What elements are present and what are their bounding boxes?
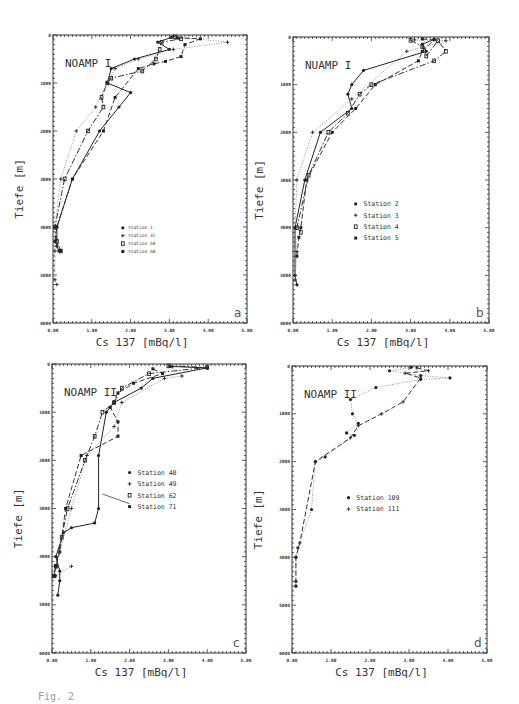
legend-entry: Station 71: [137, 503, 176, 511]
marker-square-icon: [152, 62, 155, 65]
legend-entry: Station 111: [356, 505, 399, 513]
y-tick-label: 3000: [280, 178, 291, 183]
x-tick-label: 5.00: [482, 658, 493, 663]
legend: Station 40Station 49Station 62Station 71: [128, 469, 177, 511]
marker-plus-icon: [427, 369, 431, 373]
y-tick-label: 6000: [40, 321, 51, 326]
marker-plus-icon: [171, 48, 175, 52]
marker-dot-icon: [347, 496, 350, 499]
y-tick-label: 2000: [279, 459, 290, 464]
y-tick-label: 3000: [40, 177, 51, 182]
marker-square-icon: [71, 178, 74, 181]
marker-square-icon: [199, 37, 202, 40]
marker-square-icon: [116, 391, 119, 394]
x-tick-label: 2.00: [124, 658, 135, 663]
marker-square-icon: [58, 550, 61, 553]
marker-square-icon: [114, 96, 117, 99]
x-axis-title: Cs 137 [mBq/l]: [95, 666, 188, 679]
x-tick-label: 0.00: [47, 658, 58, 663]
marker-square-icon: [64, 507, 67, 510]
panel-a: 0.001.002.003.004.005.000100020003000400…: [13, 33, 253, 350]
y-axis-title: Tiefe [m]: [13, 159, 26, 219]
y-tick-label: 6000: [279, 651, 290, 656]
legend-entry: Station 40: [137, 469, 176, 477]
marker-square-icon: [161, 372, 164, 375]
panel-d: 0.001.002.003.004.005.000100020003000400…: [252, 364, 493, 680]
x-tick-label: 1.00: [327, 328, 338, 333]
marker-plus-icon: [53, 249, 57, 253]
x-tick-label: 4.00: [444, 328, 455, 333]
legend-entry: Station 109: [356, 494, 399, 502]
x-axis-title: Cs 137 [mBq/l]: [96, 336, 189, 349]
x-tick-label: 0.00: [287, 658, 298, 663]
marker-dot-icon: [448, 376, 451, 379]
marker-plus-icon: [121, 234, 125, 238]
marker-open-icon: [354, 225, 357, 229]
marker-open-icon: [128, 493, 131, 497]
marker-dot-icon: [140, 386, 143, 389]
y-tick-label: 3000: [39, 506, 50, 511]
y-tick-label: 1000: [280, 82, 291, 87]
marker-square-icon: [297, 236, 300, 239]
marker-square-icon: [354, 107, 357, 110]
marker-plus-icon: [180, 374, 184, 378]
x-axis-title: Cs 137 [mBq/l]: [337, 336, 430, 349]
series-line: [56, 366, 207, 595]
marker-dot-icon: [319, 131, 322, 134]
marker-plus-icon: [405, 50, 409, 54]
y-tick-label: 0: [287, 364, 290, 369]
y-tick-label: 5000: [39, 602, 50, 607]
marker-plus-icon: [354, 214, 358, 218]
annotation-arrow: [103, 494, 130, 504]
marker-square-icon: [59, 250, 62, 253]
marker-dot-icon: [56, 594, 59, 597]
legend: Station 2Station 3Station 4Station 5: [354, 200, 399, 242]
marker-plus-icon: [415, 366, 419, 370]
panel-b: 0.001.002.003.004.005.000100020003000400…: [253, 35, 495, 350]
marker-square-icon: [421, 50, 424, 53]
marker-dot-icon: [354, 202, 357, 205]
marker-square-icon: [176, 36, 179, 39]
plot-frame: [293, 37, 489, 323]
legend-entry: Station 58: [128, 249, 155, 254]
x-tick-label: 3.00: [405, 328, 416, 333]
marker-square-icon: [305, 179, 308, 182]
x-tick-label: 5.00: [241, 658, 252, 663]
panel-title: NUAMP I: [305, 59, 351, 72]
legend-entry: Station 2: [364, 200, 399, 208]
legend: Station 109Station 111: [347, 494, 400, 513]
marker-plus-icon: [59, 177, 63, 181]
figure-caption: Fig. 2: [38, 691, 74, 702]
x-tick-label: 2.00: [125, 328, 136, 333]
legend-entry: Station 4: [364, 223, 399, 231]
marker-square-icon: [151, 367, 154, 370]
marker-square-icon: [299, 226, 302, 229]
marker-dot-icon: [129, 91, 132, 94]
marker-square-icon: [132, 382, 135, 385]
marker-plus-icon: [444, 39, 448, 43]
y-axis-title: Tiefe [m]: [12, 489, 25, 549]
marker-plus-icon: [120, 401, 124, 405]
series-line: [295, 39, 434, 285]
panel-c: 0.001.002.003.004.005.000100020003000400…: [12, 362, 252, 680]
marker-dot-icon: [388, 369, 391, 372]
marker-dot-icon: [345, 431, 348, 434]
marker-square-icon: [109, 406, 112, 409]
marker-square-icon: [116, 420, 119, 423]
y-tick-label: 3000: [279, 507, 290, 512]
marker-dot-icon: [346, 93, 349, 96]
marker-plus-icon: [226, 40, 230, 44]
marker-dot-icon: [350, 83, 353, 86]
marker-dot-icon: [351, 412, 354, 415]
y-tick-label: 0: [48, 33, 51, 38]
marker-dot-icon: [105, 411, 108, 414]
marker-dot-icon: [121, 226, 124, 229]
marker-square-icon: [52, 574, 55, 577]
y-tick-label: 2000: [39, 458, 50, 463]
marker-square-icon: [164, 60, 167, 63]
marker-plus-icon: [311, 131, 315, 135]
marker-plus-icon: [70, 565, 74, 569]
marker-dot-icon: [353, 434, 356, 437]
panel-letter: c: [233, 636, 240, 650]
marker-square-icon: [55, 226, 58, 229]
